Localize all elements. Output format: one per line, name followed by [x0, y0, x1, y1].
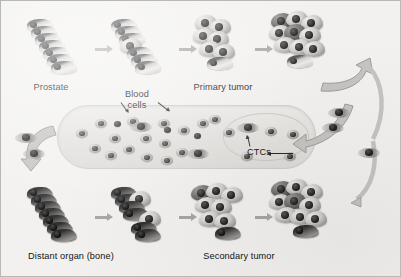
flow-arrow-4	[95, 216, 108, 219]
metastasis-diagram: Prostate Primary tumor	[0, 0, 401, 277]
migrating-ctc	[358, 148, 380, 158]
migrating-ctc	[15, 133, 37, 143]
flow-arrow-5	[179, 216, 192, 219]
flow-arrow-6	[255, 216, 268, 219]
label-secondary-tumor: Secondary tumor	[203, 251, 274, 262]
migrating-ctc	[23, 149, 45, 159]
migrating-ctc	[322, 123, 344, 133]
migrating-ctc	[328, 108, 350, 118]
intravasation-arrow-right-up	[321, 58, 373, 91]
intravasation-curve-outer	[369, 67, 382, 139]
label-distant-organ: Distant organ (bone)	[28, 251, 114, 262]
